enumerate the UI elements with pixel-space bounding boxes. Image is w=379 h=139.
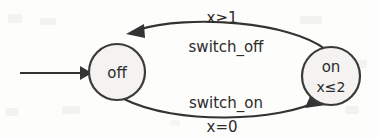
transition-off-to-on-event: switch_on xyxy=(189,94,263,113)
state-node-on[interactable]: on x≤2 xyxy=(302,47,360,105)
state-machine-diagram: off on x≤2 x≥1 switch_off switch_on x=0 xyxy=(0,0,379,139)
initial-state-arrow xyxy=(20,66,92,80)
state-off-label: off xyxy=(107,64,127,82)
state-on-invariant: x≤2 xyxy=(317,79,346,95)
transition-on-to-off-event: switch_off xyxy=(189,38,265,57)
state-on-label: on xyxy=(322,58,341,76)
transition-on-to-off-guard: x≥1 xyxy=(207,9,238,27)
state-node-off[interactable]: off xyxy=(89,44,145,100)
transition-off-to-on-guard: x=0 xyxy=(207,118,238,136)
